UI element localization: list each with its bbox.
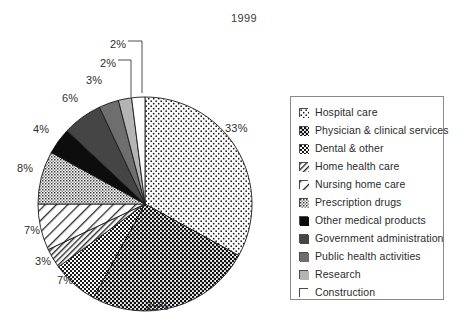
legend-item[interactable]: Other medical products <box>291 211 443 229</box>
legend-swatch-crosshatch-gray-icon <box>299 198 308 207</box>
leader-line <box>128 41 142 93</box>
legend-item-label: Nursing home care <box>315 178 405 190</box>
legend-item-label: Prescription drugs <box>315 196 401 208</box>
legend-item-label: Hospital care <box>315 106 378 118</box>
legend-swatch-solid-white-icon <box>299 288 308 297</box>
legend-item-label: Home health care <box>315 160 399 172</box>
legend-swatch-diagonal-fine-icon <box>299 162 308 171</box>
legend-item[interactable]: Construction <box>291 283 443 301</box>
legend-swatch-checker-icon <box>299 144 308 153</box>
legend-swatch-solid-gray-icon <box>299 252 308 261</box>
slice-percent-label: 2% <box>110 38 126 50</box>
slice-percent-label: 3% <box>86 74 102 86</box>
chart-legend: Hospital carePhysician & clinical servic… <box>290 96 444 300</box>
legend-item[interactable]: Public health activities <box>291 247 443 265</box>
legend-item[interactable]: Hospital care <box>291 103 443 121</box>
legend-item-label: Public health activities <box>315 250 421 262</box>
legend-item-label: Research <box>315 268 361 280</box>
legend-swatch-solid-darkgray-icon <box>299 234 308 243</box>
legend-item-label: Other medical products <box>315 214 426 226</box>
legend-item[interactable]: Home health care <box>291 157 443 175</box>
legend-swatch-solid-black-icon <box>299 216 308 225</box>
legend-swatch-dots-dense-icon <box>299 126 308 135</box>
slice-percent-label: 7% <box>24 224 40 236</box>
legend-item-label: Physician & clinical services <box>315 124 449 136</box>
legend-swatch-diagonal-wide-icon <box>299 180 308 189</box>
slice-percent-label: 8% <box>17 162 33 174</box>
legend-item[interactable]: Physician & clinical services <box>291 121 443 139</box>
slice-percent-label: 33% <box>225 122 248 134</box>
legend-swatch-solid-lightgray-icon <box>299 270 308 279</box>
legend-item-label: Construction <box>315 286 375 298</box>
legend-item[interactable]: Research <box>291 265 443 283</box>
legend-item[interactable]: Prescription drugs <box>291 193 443 211</box>
slice-percent-label: 25% <box>146 300 169 312</box>
leader-line <box>118 60 131 97</box>
legend-item[interactable]: Dental & other <box>291 139 443 157</box>
legend-item[interactable]: Government administration <box>291 229 443 247</box>
pie-chart-figure: 1999 <box>0 0 466 329</box>
legend-swatch-dots-sparse-icon <box>299 108 308 117</box>
slice-percent-label: 2% <box>100 57 116 69</box>
slice-percent-label: 7% <box>57 274 73 286</box>
legend-item-label: Government administration <box>315 232 444 244</box>
slice-percent-label: 3% <box>35 255 51 267</box>
slice-percent-label: 4% <box>33 123 49 135</box>
slice-percent-label: 6% <box>62 92 78 104</box>
legend-item-label: Dental & other <box>315 142 384 154</box>
legend-item[interactable]: Nursing home care <box>291 175 443 193</box>
